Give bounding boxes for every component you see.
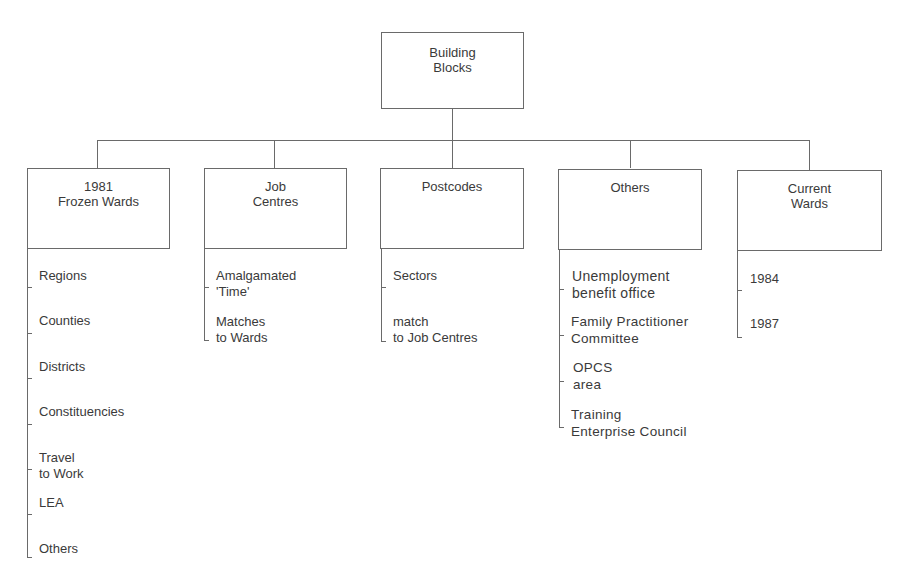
bracket-tick: [27, 557, 32, 558]
bracket-tick: [204, 340, 209, 341]
node-label-line1: 1981: [28, 179, 169, 194]
leaf-districts: Districts: [39, 359, 85, 375]
bracket-tick: [204, 287, 209, 288]
connector-col2: [274, 140, 275, 168]
leaf-line1: Family Practitioner: [571, 313, 688, 330]
node-label-line2: Frozen Wards: [28, 194, 169, 209]
bracket-tick: [381, 287, 386, 288]
bracket-tick: [27, 514, 32, 515]
bracket-tick: [559, 381, 564, 382]
leaf-line1: Amalgamated: [216, 268, 296, 284]
leaf-amalgamated-time: Amalgamated 'Time': [216, 268, 296, 300]
node-label-line2: Wards: [738, 196, 881, 211]
node-current-wards: Current Wards: [737, 170, 882, 251]
root-label-line1: Building: [382, 45, 523, 60]
leaf-family-practitioner-committee: Family Practitioner Committee: [571, 313, 688, 347]
bracket-tick: [27, 424, 32, 425]
leaf-constituencies: Constituencies: [39, 404, 124, 420]
bracket-tick: [27, 469, 32, 470]
leaf-training-enterprise-council: Training Enterprise Council: [571, 406, 687, 440]
leaf-counties: Counties: [39, 313, 90, 329]
leaf-matches-to-wards: Matches to Wards: [216, 314, 268, 346]
leaf-unemployment-benefit-office: Unemployment benefit office: [572, 268, 670, 302]
node-label-line1: Postcodes: [381, 179, 523, 194]
leaf-1987: 1987: [750, 316, 779, 332]
root-connector: [452, 108, 453, 140]
leaf-line1: OPCS: [573, 359, 612, 376]
leaf-others: Others: [39, 541, 78, 557]
leaf-line2: 'Time': [216, 284, 296, 300]
leaf-line2: area: [573, 376, 612, 393]
connector-col5: [809, 140, 810, 170]
leaf-line2: to Job Centres: [393, 330, 478, 346]
root-node-building-blocks: Building Blocks: [381, 32, 524, 109]
node-others: Others: [558, 169, 702, 250]
bracket-tick: [381, 341, 386, 342]
node-label-line2: Centres: [205, 194, 346, 209]
leaf-line1: Training: [571, 406, 687, 423]
leaf-regions: Regions: [39, 268, 87, 284]
bracket-tick: [27, 333, 32, 334]
bracket-tick: [559, 427, 564, 428]
node-postcodes: Postcodes: [380, 168, 524, 249]
bracket-tick: [737, 290, 742, 291]
bracket-col2: [204, 249, 205, 340]
node-job-centres: Job Centres: [204, 168, 347, 249]
leaf-match-to-job-centres: match to Job Centres: [393, 314, 478, 346]
connector-col3: [452, 140, 453, 168]
connector-col4: [630, 140, 631, 168]
node-label-line1: Others: [559, 180, 701, 195]
node-1981-frozen-wards: 1981 Frozen Wards: [27, 168, 170, 249]
leaf-line1: Unemployment: [572, 268, 670, 285]
leaf-line1: Matches: [216, 314, 268, 330]
leaf-travel-to-work: Travel to Work: [39, 450, 84, 482]
leaf-opcs-area: OPCS area: [573, 359, 612, 393]
bracket-tick: [27, 378, 32, 379]
bracket-tick: [559, 335, 564, 336]
leaf-sectors: Sectors: [393, 268, 437, 284]
bracket-col5: [737, 251, 738, 337]
leaf-1984: 1984: [750, 271, 779, 287]
bracket-col1: [27, 249, 28, 557]
bracket-tick: [559, 289, 564, 290]
node-label-line1: Current: [738, 181, 881, 196]
leaf-line2: Committee: [571, 330, 688, 347]
node-label-line1: Job: [205, 179, 346, 194]
root-label-line2: Blocks: [382, 60, 523, 75]
leaf-line1: Travel: [39, 450, 84, 466]
leaf-line2: to Wards: [216, 330, 268, 346]
connector-col1: [97, 140, 98, 168]
leaf-lea: LEA: [39, 495, 64, 511]
leaf-line2: to Work: [39, 466, 84, 482]
leaf-line2: benefit office: [572, 285, 670, 302]
sibling-bus-line: [97, 140, 809, 141]
leaf-line1: match: [393, 314, 478, 330]
bracket-tick: [737, 337, 742, 338]
bracket-col4: [559, 250, 560, 427]
bracket-tick: [27, 287, 32, 288]
leaf-line2: Enterprise Council: [571, 423, 687, 440]
bracket-col3: [381, 249, 382, 341]
